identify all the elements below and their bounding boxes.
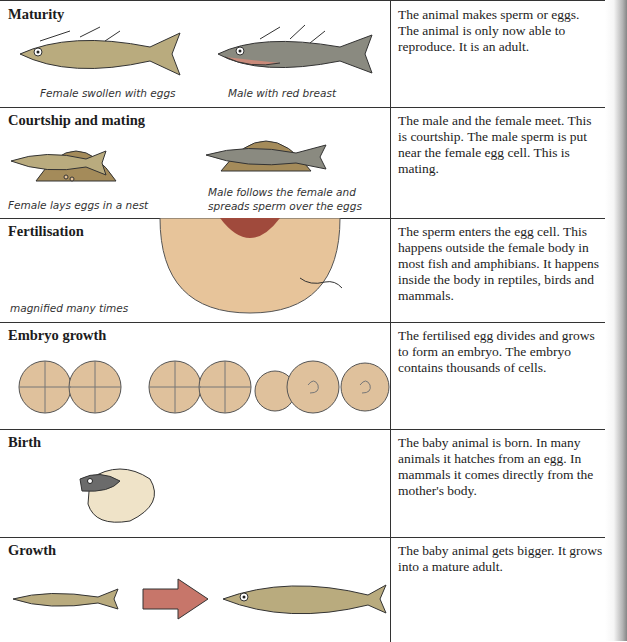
stage-description: The animal makes sperm or eggs. The anim… [398,7,603,55]
stage-row-courtship: Courtship and mating Female lays eggs in… [0,107,605,219]
caption: Male follows the female and spreads sper… [208,185,388,213]
column-divider [390,1,391,642]
caption: magnified many times [10,302,128,314]
life-cycle-table: Maturity Female swollen with eggs Male w… [0,0,605,642]
stage-row-maturity: Maturity Female swollen with eggs Male w… [0,1,605,108]
dividing-cells-icon [10,347,390,427]
page-edge-shadow [605,0,627,641]
caption: Female lays eggs in a nest [8,199,148,211]
caption: Male with red breast [228,87,336,99]
stage-title: Fertilisation [8,223,84,240]
stage-title: Growth [8,542,56,559]
stage-description: The fertilised egg divides and grows to … [398,328,603,376]
fish-in-nest-icon [6,111,386,186]
stage-description: The sperm enters the egg cell. This happ… [398,224,603,304]
small-fish-grows-icon [8,567,388,637]
stage-row-birth: Birth The baby animal is born. In many a… [0,429,605,538]
stage-description: The male and the female meet. This is co… [398,113,603,177]
stage-description: The baby animal is born. In many animals… [398,435,603,499]
stage-title: Embryo growth [8,327,106,344]
egg-and-sperm-icon [150,218,350,318]
arrow-icon [143,579,208,619]
two-fish-icon [10,19,390,89]
caption: Female swollen with eggs [40,87,176,99]
stage-description: The baby animal gets bigger. It grows in… [398,543,603,575]
stage-row-growth: Growth The baby animal gets bigger. It g… [0,537,605,642]
stage-title: Birth [8,434,41,451]
stage-row-embryo: Embryo growth The fertilised egg divides… [0,322,605,430]
stage-row-fertilisation: Fertilisation magnified many times The s… [0,218,605,323]
hatching-fish-icon [70,459,170,529]
